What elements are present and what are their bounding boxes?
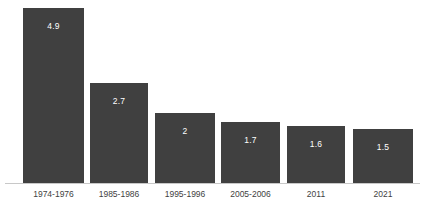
category-tick-label: 2021 xyxy=(353,188,413,200)
bar xyxy=(287,126,345,184)
bar-group: 1.7 xyxy=(221,122,280,184)
bar-group: 1.6 xyxy=(287,126,345,184)
category-tick-label: 1985-1986 xyxy=(90,188,148,200)
bar xyxy=(23,8,84,184)
bar-value-label: 1.6 xyxy=(287,139,345,149)
category-tick-label: 2011 xyxy=(287,188,345,200)
bar-value-label: 1.5 xyxy=(353,142,413,152)
bar xyxy=(353,129,413,184)
bar-value-label: 1.7 xyxy=(221,135,280,145)
category-tick-label: 1974-1976 xyxy=(23,188,84,200)
bar xyxy=(221,122,280,184)
bar-group: 1.5 xyxy=(353,129,413,184)
bar-group: 4.9 xyxy=(23,8,84,184)
bar-value-label: 2.7 xyxy=(90,96,148,106)
category-axis-line xyxy=(5,183,420,184)
bar-value-label: 4.9 xyxy=(23,21,84,31)
bar xyxy=(155,113,215,184)
category-tick-label: 1995-1996 xyxy=(155,188,215,200)
bar-group: 2 xyxy=(155,113,215,184)
plot-area: 4.92.721.71.61.5 xyxy=(0,0,432,184)
category-tick-label: 2005-2006 xyxy=(221,188,280,200)
bar-group: 2.7 xyxy=(90,83,148,184)
category-axis-labels: 1974-19761985-19861995-19962005-20062011… xyxy=(0,188,432,202)
bar-chart: 4.92.721.71.61.5 1974-19761985-19861995-… xyxy=(0,0,432,209)
bar-value-label: 2 xyxy=(155,126,215,136)
